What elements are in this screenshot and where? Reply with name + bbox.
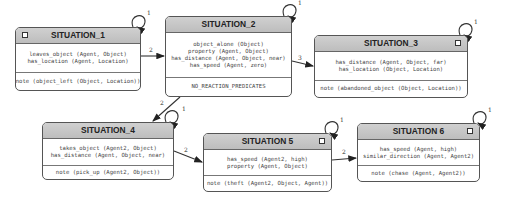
- predicate: property (Agent, Object): [166, 48, 291, 55]
- predicate: has_speed (Agent, high): [358, 146, 479, 153]
- loop-label-s2: 1: [298, 0, 302, 6]
- loop-label-s1: 1: [147, 9, 151, 16]
- state-situation-6[interactable]: SITUATION 6 has_speed (Agent, high) simi…: [357, 123, 480, 182]
- predicate: has_distance (Agent, Object, near): [166, 55, 291, 62]
- state-marker-icon: [467, 128, 473, 134]
- loop-label-s3: 1: [474, 18, 478, 25]
- state-title: SITUATION_4: [81, 125, 135, 135]
- loop-label-s4: 1: [182, 105, 186, 112]
- state-situation-5[interactable]: SITUATION 5 has_speed (Agent2, high) pro…: [203, 133, 332, 192]
- state-header: SITUATION_4: [43, 123, 173, 139]
- state-note: NO_REACTION_PREDICATES: [166, 76, 291, 96]
- state-title: SITUATION_3: [364, 38, 418, 48]
- state-marker-icon: [455, 40, 461, 46]
- predicate: takes_object (Agent2, Object): [43, 145, 173, 152]
- predicate: has_location (Object, Location): [315, 66, 467, 73]
- state-header: SITUATION_3: [315, 36, 467, 52]
- state-title: SITUATION_1: [51, 30, 105, 40]
- state-marker-icon: [319, 138, 325, 144]
- state-situation-3[interactable]: SITUATION_3 has_distance (Agent, Object,…: [314, 35, 468, 98]
- state-marker-icon: [22, 32, 28, 38]
- predicate: property (Agent, Object): [204, 163, 331, 170]
- edge-label-5-6: 2: [342, 148, 346, 155]
- predicate: object_alone (Object): [166, 41, 291, 48]
- edge-label-2-3: 3: [298, 54, 302, 61]
- predicate: has_distance (Agent, Object, near): [43, 152, 173, 159]
- state-note: note (object_left (Object, Location)): [16, 71, 140, 90]
- state-title: SITUATION 5: [242, 136, 294, 146]
- predicate: has_distance (Agent, Object, far): [315, 59, 467, 66]
- predicate: has_speed (Agent2, high): [204, 156, 331, 163]
- state-predicates: object_alone (Object) property (Agent, O…: [166, 33, 291, 77]
- state-title: SITUATION 6: [393, 126, 445, 136]
- state-note: note (chase (Agent, Agent2)): [358, 164, 479, 181]
- state-situation-2[interactable]: SITUATION_2 object_alone (Object) proper…: [165, 16, 292, 97]
- state-note: note (theft (Agent2, Object, Agent)): [204, 174, 331, 191]
- state-predicates: has_speed (Agent, high) similar_directio…: [358, 140, 479, 165]
- state-situation-1[interactable]: SITUATION_1 leaves_object (Agent, Object…: [15, 27, 141, 91]
- edge-label-1-2: 2: [149, 46, 153, 53]
- state-predicates: has_distance (Agent, Object, far) has_lo…: [315, 52, 467, 80]
- edge-label-2-4: 2: [160, 99, 164, 106]
- loop-label-s5: 1: [340, 116, 344, 123]
- state-note: note (pick_up (Agent2, Object)): [43, 164, 173, 179]
- state-title: SITUATION_2: [202, 19, 256, 29]
- state-note: note (abandoned_object (Object, Location…: [315, 79, 467, 97]
- predicate: leaves_object (Agent, Object): [16, 51, 140, 58]
- state-header: SITUATION 6: [358, 124, 479, 140]
- state-header: SITUATION_1: [16, 28, 140, 44]
- state-predicates: takes_object (Agent2, Object) has_distan…: [43, 139, 173, 165]
- state-header: SITUATION_2: [166, 17, 291, 33]
- predicate: similar_direction (Agent, Agent2): [358, 153, 479, 160]
- predicate: has_speed (Agent, zero): [166, 62, 291, 69]
- state-header: SITUATION 5: [204, 134, 331, 150]
- state-situation-4[interactable]: SITUATION_4 takes_object (Agent2, Object…: [42, 122, 174, 180]
- state-predicates: has_speed (Agent2, high) property (Agent…: [204, 150, 331, 175]
- loop-label-s6: 1: [488, 106, 492, 113]
- edge-label-4-5: 2: [184, 146, 188, 153]
- state-predicates: leaves_object (Agent, Object) has_locati…: [16, 44, 140, 72]
- predicate: has_location (Agent, Location): [16, 58, 140, 65]
